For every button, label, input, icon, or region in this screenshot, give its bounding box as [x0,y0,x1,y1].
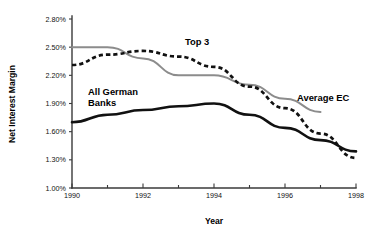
y-tick-label: 2.20% [46,71,67,80]
series-label-average-ec: Average EC [297,92,350,103]
x-tick-label: 1994 [206,191,222,200]
y-tick-label: 2.50% [46,43,67,52]
series-label-all-german-banks-line1: All German [88,86,138,97]
series-label-top-3: Top 3 [185,36,209,47]
series-label-all-german-banks-line2: Banks [88,97,116,108]
y-tick-label: 1.30% [46,155,67,164]
x-axis-tick-labels: 19901992199419961998 [64,191,364,200]
y-tick-label: 1.90% [46,99,67,108]
chart-canvas: 1.00%1.30%1.60%1.90%2.20%2.50%2.80% 1990… [0,0,383,229]
x-tick-label: 1998 [348,191,364,200]
x-axis-title: Year [205,216,224,226]
x-tick-label: 1990 [64,191,80,200]
y-tick-label: 1.60% [46,127,67,136]
y-axis-title: Net Interest Margin [7,65,17,143]
x-tick-label: 1996 [277,191,293,200]
x-tick-label: 1992 [135,191,151,200]
y-axis-tick-labels: 1.00%1.30%1.60%1.90%2.20%2.50%2.80% [46,15,67,193]
net-interest-margin-chart: 1.00%1.30%1.60%1.90%2.20%2.50%2.80% 1990… [0,0,383,229]
y-tick-label: 2.80% [46,15,67,24]
